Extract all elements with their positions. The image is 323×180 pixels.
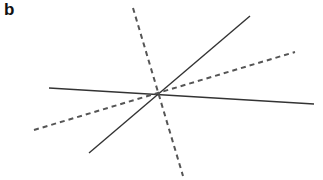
dashed-shallow-line [34, 52, 295, 130]
solid-near-horizontal-line [49, 88, 314, 104]
line-diagram [0, 0, 323, 180]
